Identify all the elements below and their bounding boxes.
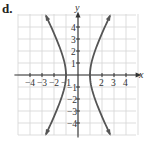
x-tick-label: −2 — [49, 78, 59, 88]
y-axis-label: y — [74, 2, 80, 13]
x-tick-label: 4 — [123, 78, 128, 88]
hyperbola-chart: −4−3−2−1234−4−3−2−11234 x y — [0, 0, 146, 144]
y-tick-label: 3 — [71, 35, 76, 45]
y-tick-label: 4 — [71, 23, 76, 33]
y-tick-label: 1 — [71, 59, 76, 69]
x-tick-label: −4 — [25, 78, 35, 88]
x-tick-label: 2 — [99, 78, 104, 88]
y-tick-label: −4 — [67, 119, 77, 129]
x-axis-label: x — [138, 69, 144, 80]
y-tick-label: −1 — [67, 83, 77, 93]
y-tick-label: 2 — [71, 47, 76, 57]
x-tick-label: −3 — [37, 78, 47, 88]
x-tick-label: 3 — [111, 78, 116, 88]
axes — [14, 11, 141, 137]
y-tick-label: −2 — [67, 95, 77, 105]
y-tick-label: −3 — [67, 107, 77, 117]
